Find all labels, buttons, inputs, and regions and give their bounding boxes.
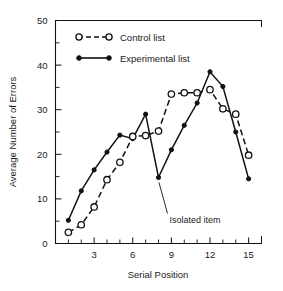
legend-marker-control-right [106, 34, 112, 40]
y-tick-label: 0 [42, 238, 47, 249]
data-point [144, 112, 148, 116]
series-control-list [65, 86, 252, 235]
legend-label-experimental: Experimental list [120, 53, 190, 64]
data-point [220, 106, 226, 112]
annotation-isolated-item: Isolated item [159, 182, 221, 225]
chart-figure: 01020304050 3691215 Isolated item [0, 0, 283, 291]
legend-marker-experimental-right [107, 56, 112, 61]
legend-marker-experimental-left [77, 56, 82, 61]
data-point [130, 133, 136, 139]
y-tick-label: 30 [37, 104, 48, 115]
data-point [169, 148, 173, 152]
data-point [142, 132, 148, 138]
x-tick-label: 12 [205, 249, 216, 260]
legend-item-control-list: Control list [76, 32, 165, 43]
annotation-label: Isolated item [170, 215, 221, 225]
x-axis: 3691215 [55, 238, 262, 260]
data-point [208, 70, 212, 74]
data-point [65, 229, 71, 235]
legend-item-experimental-list: Experimental list [77, 53, 190, 64]
data-point [181, 90, 187, 96]
serial-position-line-chart: 01020304050 3691215 Isolated item [0, 0, 283, 291]
data-point [155, 128, 161, 134]
x-axis-title: Serial Position [128, 269, 189, 280]
y-tick-label: 20 [37, 149, 48, 160]
y-tick-label: 50 [37, 15, 48, 26]
x-tick-label: 15 [243, 249, 254, 260]
data-point [91, 204, 97, 210]
x-tick-label: 9 [169, 249, 174, 260]
y-tick-label: 10 [37, 193, 48, 204]
data-point [105, 150, 109, 154]
data-point [168, 91, 174, 97]
data-point [117, 159, 123, 165]
data-point [221, 84, 225, 88]
data-point [78, 222, 84, 228]
data-point [79, 189, 83, 193]
data-point [245, 152, 251, 158]
data-point [194, 90, 200, 96]
y-axis-title: Average Number of Errors [7, 76, 18, 187]
series-experimental-list [66, 70, 250, 223]
data-point [156, 175, 160, 179]
data-point [92, 168, 96, 172]
data-point [207, 86, 213, 92]
legend-label-control: Control list [120, 32, 165, 43]
data-point [66, 218, 70, 222]
x-tick-label: 3 [91, 249, 96, 260]
data-point [104, 177, 110, 183]
data-point [195, 101, 199, 105]
data-point [233, 111, 239, 117]
legend-marker-control-left [76, 34, 82, 40]
data-point [247, 177, 251, 181]
data-point [182, 123, 186, 127]
data-point [118, 133, 122, 137]
y-tick-label: 40 [37, 60, 48, 71]
x-tick-label: 6 [130, 249, 135, 260]
y-axis: 01020304050 [37, 15, 62, 249]
data-point [234, 130, 238, 134]
chart-legend: Control list Experimental list [76, 32, 190, 64]
